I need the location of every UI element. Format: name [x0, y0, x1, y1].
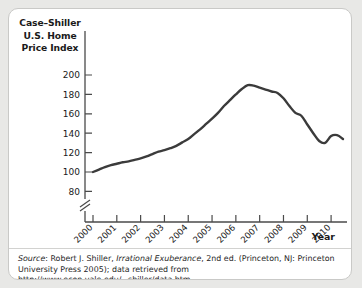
line-chart-svg: 80100120140160180200 2000200120022003200… [9, 9, 352, 247]
x-axis-tick-label: 2000 [72, 222, 95, 245]
x-axis-tick-label: 2006 [215, 222, 238, 245]
x-axis-tick-label: 2005 [191, 222, 214, 245]
x-axis-tick-label: 2004 [167, 222, 190, 245]
y-axis-tick-group: 80100120140160180200 [63, 70, 92, 196]
x-axis-tick-label: 2007 [239, 222, 262, 245]
source-line1-a: : Robert J. Shiller, [45, 254, 116, 263]
y-axis-tick-label: 160 [63, 109, 80, 119]
y-axis-tick-label: 80 [69, 187, 81, 197]
source-line2: University Press 2005); data retrieved f… [18, 265, 193, 280]
source-prefix: Source [18, 254, 45, 263]
y-axis-tick-label: 200 [63, 70, 80, 80]
x-axis-title: Year [312, 231, 335, 242]
x-axis-tick-group: 2000200120022003200420052006200720082009… [72, 215, 333, 245]
source-line1-b: , 2nd ed. (Princeton, NJ: Princeton [201, 254, 334, 263]
x-axis-tick-label: 2009 [286, 222, 309, 245]
y-axis-tick-label: 140 [63, 129, 80, 139]
y-axis-tick-label: 100 [63, 167, 80, 177]
y-axis-break-mark-1 [80, 200, 90, 207]
source-caption: Source: Robert J. Shiller, Irrational Ex… [9, 248, 352, 280]
x-axis-tick-label: 2002 [119, 222, 142, 245]
source-book-title: Irrational Exuberance [116, 254, 201, 263]
chart-plot-area: 80100120140160180200 2000200120022003200… [9, 9, 352, 247]
x-axis-tick-label: 2003 [143, 222, 166, 245]
y-axis-tick-label: 120 [63, 148, 80, 158]
y-axis-tick-label: 180 [63, 90, 80, 100]
x-axis-tick-label: 2008 [262, 222, 285, 245]
x-axis-tick-label: 2001 [96, 222, 119, 245]
figure-panel: Case–Shiller U.S. Home Price Index 80100… [8, 8, 352, 280]
data-series-line [93, 85, 343, 172]
y-axis-break-mark-2 [80, 204, 90, 211]
